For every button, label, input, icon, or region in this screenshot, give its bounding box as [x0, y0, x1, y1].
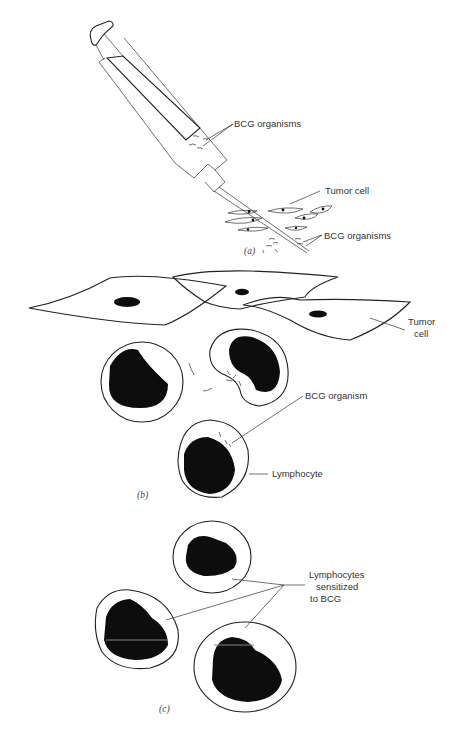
leader-line [245, 585, 284, 628]
caption-c: (c) [159, 704, 170, 715]
caption-b: (b) [137, 490, 148, 501]
leader-line [203, 124, 233, 146]
label-tumor-cell-b-1: Tumor [408, 316, 435, 327]
caption-a: (a) [244, 246, 255, 257]
lymphocyte-bottom [178, 420, 248, 497]
tumor-cells-large [29, 271, 410, 340]
bcg-organisms-in-syringe [189, 136, 208, 149]
label-tumor-cell-a: Tumor cell [325, 185, 369, 196]
label-lymphocytes-1: Lymphocytes [309, 569, 365, 580]
panel-b: Tumor cell BCG organism Lymphocyte (b) [29, 271, 435, 501]
label-lymphocytes-2: sensitized [316, 581, 358, 592]
lymphocyte-kidney [210, 329, 288, 406]
label-lymphocyte: Lymphocyte [272, 468, 323, 479]
label-bcg-organisms-injected: BCG organisms [324, 230, 391, 241]
leader-line [290, 191, 320, 204]
label-bcg-organism-b: BCG organism [305, 390, 367, 401]
leader-line [232, 396, 303, 443]
leader-line [166, 585, 284, 620]
lymphocyte-left [101, 342, 183, 422]
tumor-cells-small [225, 206, 332, 231]
label-bcg-organisms-syringe: BCG organisms [234, 118, 301, 129]
leader-line [206, 124, 233, 140]
label-lymphocytes-3: to BCG [310, 593, 341, 604]
bcg-immunotherapy-figure: BCG organisms Tumor cell BCG organisms (… [0, 0, 462, 733]
leader-line [306, 235, 322, 246]
panel-a: BCG organisms Tumor cell BCG organisms (… [90, 21, 391, 257]
sensitized-lymphocyte-top [173, 521, 251, 593]
panel-c: Lymphocytes sensitized to BCG (c) [95, 521, 365, 715]
bcg-organisms-free [189, 363, 212, 391]
label-tumor-cell-b-2: cell [414, 328, 428, 339]
leader-line [303, 235, 322, 242]
bcg-organisms-injected [263, 239, 303, 254]
sensitized-lymphocyte-left [95, 590, 178, 669]
sensitized-lymphocyte-right [194, 622, 296, 712]
syringe-icon [90, 21, 309, 253]
